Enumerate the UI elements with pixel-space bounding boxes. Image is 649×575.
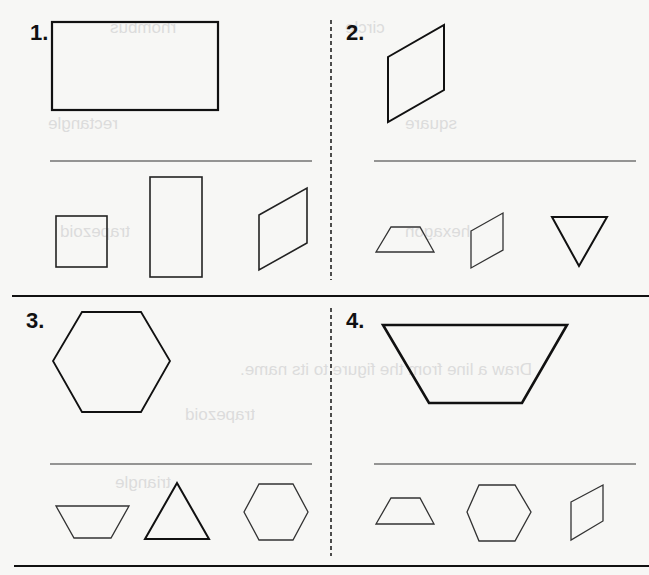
worksheet-figures — [0, 0, 649, 575]
target-hexagon[interactable] — [53, 312, 170, 412]
choice-rhombus[interactable] — [571, 485, 603, 540]
choice-trapezoid[interactable] — [56, 506, 129, 538]
choice-triangle[interactable] — [552, 217, 607, 266]
choice-square[interactable] — [56, 216, 107, 267]
choice-rhombus[interactable] — [259, 188, 307, 270]
choice-triangle[interactable] — [145, 483, 209, 539]
choice-hexagon[interactable] — [467, 485, 531, 541]
worksheet-page: rhombus circle rectangle square hexagon … — [0, 0, 649, 575]
target-rhombus[interactable] — [388, 25, 444, 122]
target-rectangle[interactable] — [52, 22, 218, 110]
choice-trapezoid[interactable] — [376, 227, 434, 252]
target-trapezoid[interactable] — [383, 325, 567, 403]
choice-rectangle[interactable] — [150, 177, 202, 277]
choice-rhombus[interactable] — [471, 213, 503, 268]
choice-trapezoid[interactable] — [376, 498, 434, 524]
choice-hexagon[interactable] — [244, 484, 308, 540]
